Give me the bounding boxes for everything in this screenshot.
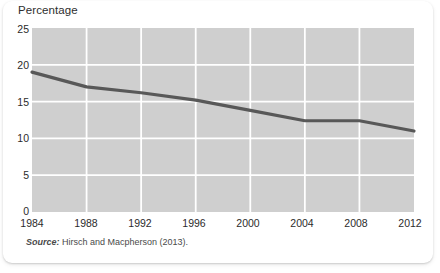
source-text: Hirsch and Macpherson (2013).	[60, 237, 189, 247]
x-tick-label-1996: 1996	[177, 217, 211, 229]
x-tick-label-1988: 1988	[69, 217, 103, 229]
y-tick-label-20: 20	[7, 59, 29, 71]
y-tick-label-15: 15	[7, 96, 29, 108]
x-tick-label-1992: 1992	[123, 217, 157, 229]
y-tick-label-10: 10	[7, 132, 29, 144]
source-note: Source: Hirsch and Macpherson (2013).	[26, 237, 188, 247]
line-chart: 25 20 15 10 5 0 1984 1988 1992 1996 2000…	[3, 1, 433, 263]
y-tick-label-25: 25	[7, 23, 29, 35]
x-tick-label-2008: 2008	[339, 217, 373, 229]
source-label: Source:	[26, 237, 60, 247]
x-tick-label-2012: 2012	[393, 217, 427, 229]
x-tick-label-2000: 2000	[231, 217, 265, 229]
y-tick-label-5: 5	[7, 169, 29, 181]
x-tick-label-1984: 1984	[15, 217, 49, 229]
y-tick-label-0: 0	[7, 205, 29, 217]
figure-card: Percentage 25 20 15 10 5 0 1984 1988 199…	[3, 1, 433, 263]
x-tick-label-2004: 2004	[285, 217, 319, 229]
